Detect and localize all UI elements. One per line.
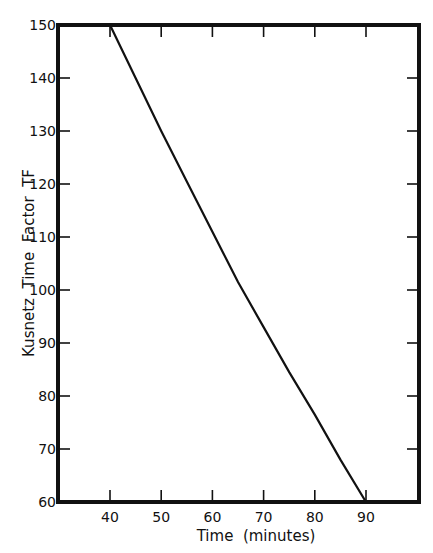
x-tick-label: 50	[152, 509, 170, 525]
y-tick-label: 150	[29, 17, 56, 33]
chart: 40506070809060708090100110120130140150 T…	[0, 0, 433, 553]
axis-ticks	[58, 25, 419, 502]
y-tick-label: 60	[38, 494, 56, 510]
y-tick-label: 140	[29, 70, 56, 86]
y-tick-label: 70	[38, 441, 56, 457]
data-line	[110, 25, 366, 502]
y-tick-label: 130	[29, 123, 56, 139]
y-axis-title: Kusnetz Time Factor TF	[20, 169, 38, 357]
plot-frame	[58, 25, 419, 502]
x-tick-label: 60	[203, 509, 221, 525]
x-tick-label: 80	[306, 509, 324, 525]
y-tick-label: 80	[38, 388, 56, 404]
y-tick-label: 90	[38, 335, 56, 351]
x-tick-label: 40	[101, 509, 119, 525]
tick-labels: 40506070809060708090100110120130140150	[29, 17, 375, 525]
x-tick-label: 70	[255, 509, 273, 525]
x-tick-label: 90	[357, 509, 375, 525]
x-axis-title: Time (minutes)	[196, 527, 316, 545]
